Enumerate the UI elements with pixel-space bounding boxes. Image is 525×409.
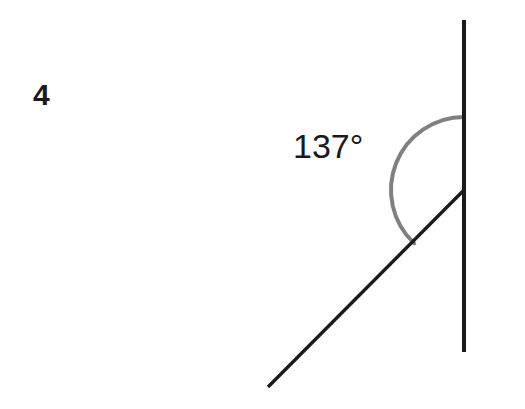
angle-figure: [0, 0, 525, 409]
angle-measure-label: 137°: [293, 129, 363, 163]
diagonal-line: [268, 190, 464, 387]
problem-number: 4: [33, 80, 50, 110]
diagram-page: 4 137°: [0, 0, 525, 409]
